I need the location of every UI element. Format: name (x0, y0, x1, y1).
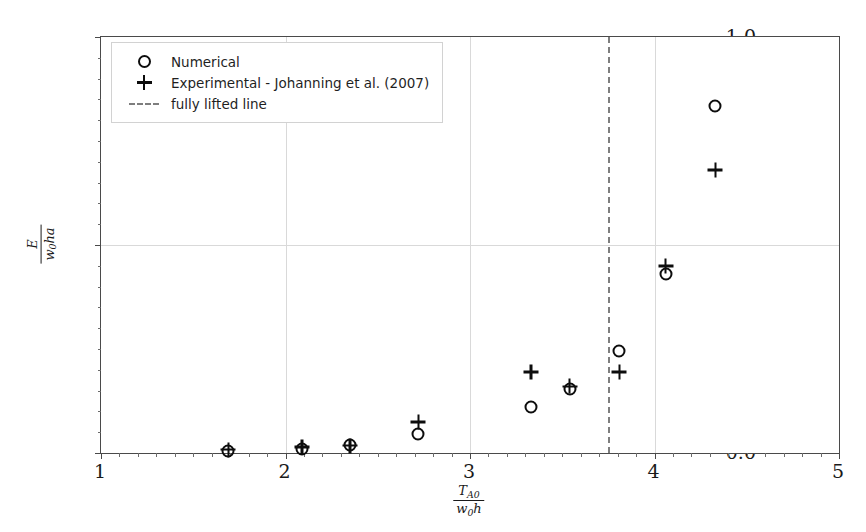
data-point-experimental (221, 442, 236, 457)
chart-legend: Numerical Experimental - Johanning et al… (111, 42, 443, 123)
fully-lifted-line-annotation (608, 37, 610, 453)
x-tick-minor (138, 453, 139, 457)
y-tick-minor (98, 120, 102, 121)
x-axis-label: TA0 w0h (453, 484, 484, 518)
x-tick-minor (544, 453, 545, 457)
data-point-numerical (524, 401, 537, 414)
y-tick-minor (98, 432, 102, 433)
x-tick-minor (562, 453, 563, 457)
chart-figure: 0.0 0.5 1.0 E w0ha TA0 w0h 12345 Numeric… (0, 0, 866, 532)
legend-item-experimental[interactable]: Experimental - Johanning et al. (2007) (123, 72, 429, 93)
x-tick-minor (581, 453, 582, 457)
x-tick-label: 3 (463, 460, 475, 482)
y-tick-minor (98, 58, 102, 59)
y-tick-minor (98, 307, 102, 308)
x-tick-minor (175, 453, 176, 457)
x-tick-minor (396, 453, 397, 457)
data-point-experimental (295, 440, 310, 455)
x-tick-minor (267, 453, 268, 457)
data-point-numerical (344, 438, 357, 451)
x-tick-major (839, 453, 840, 459)
data-point-experimental (708, 163, 723, 178)
data-point-numerical (412, 428, 425, 441)
x-tick-label: 5 (832, 460, 844, 482)
y-axis-numerator: E (26, 224, 42, 263)
x-tick-minor (599, 453, 600, 457)
y-tick-major (95, 37, 101, 38)
data-point-numerical (613, 345, 626, 358)
data-point-experimental (411, 414, 426, 429)
y-tick-minor (98, 411, 102, 412)
gridline-horizontal (101, 245, 839, 246)
legend-item-label: Numerical (165, 54, 240, 70)
x-tick-minor (802, 453, 803, 457)
x-tick-minor (359, 453, 360, 457)
data-point-numerical (222, 444, 235, 457)
data-point-experimental (658, 258, 673, 273)
x-tick-minor (765, 453, 766, 457)
y-axis-denominator: w0ha (41, 224, 57, 263)
legend-item-fully-lifted-line[interactable]: fully lifted line (123, 93, 429, 114)
y-tick-minor (98, 162, 102, 163)
data-point-numerical (296, 442, 309, 455)
y-tick-minor (98, 183, 102, 184)
circle-marker-icon (123, 51, 165, 72)
x-tick-minor (322, 453, 323, 457)
y-tick-minor (98, 203, 102, 204)
x-tick-minor (341, 453, 342, 457)
x-axis-numerator: TA0 (453, 484, 484, 501)
y-tick-minor (98, 224, 102, 225)
x-tick-minor (433, 453, 434, 457)
x-tick-label: 4 (647, 460, 659, 482)
y-tick-minor (98, 328, 102, 329)
y-tick-minor (98, 266, 102, 267)
data-point-experimental (562, 379, 577, 394)
x-tick-minor (507, 453, 508, 457)
y-tick-minor (98, 79, 102, 80)
x-tick-minor (710, 453, 711, 457)
x-tick-minor (230, 453, 231, 457)
x-tick-minor (304, 453, 305, 457)
x-tick-major (286, 453, 287, 459)
x-tick-minor (618, 453, 619, 457)
x-tick-minor (249, 453, 250, 457)
legend-item-numerical[interactable]: Numerical (123, 51, 429, 72)
data-point-experimental (523, 364, 538, 379)
x-tick-minor (415, 453, 416, 457)
x-tick-major (101, 453, 102, 459)
x-tick-label: 1 (94, 460, 106, 482)
dashed-line-icon (123, 93, 165, 114)
y-tick-major (95, 245, 101, 246)
y-axis-label: E w0ha (26, 224, 58, 263)
y-tick-minor (98, 349, 102, 350)
x-tick-minor (452, 453, 453, 457)
y-tick-major (95, 453, 101, 454)
data-point-numerical (563, 382, 576, 395)
x-tick-minor (673, 453, 674, 457)
x-tick-minor (784, 453, 785, 457)
legend-item-label: fully lifted line (165, 96, 267, 112)
x-tick-major (655, 453, 656, 459)
x-tick-minor (212, 453, 213, 457)
x-tick-minor (747, 453, 748, 457)
x-tick-minor (156, 453, 157, 457)
data-point-numerical (709, 99, 722, 112)
y-tick-minor (98, 99, 102, 100)
data-point-experimental (343, 438, 358, 453)
data-point-numerical (659, 268, 672, 281)
x-tick-minor (525, 453, 526, 457)
plus-marker-icon (123, 72, 165, 93)
x-axis-denominator: w0h (453, 501, 484, 517)
x-tick-minor (821, 453, 822, 457)
x-tick-minor (193, 453, 194, 457)
x-tick-minor (691, 453, 692, 457)
y-tick-minor (98, 370, 102, 371)
legend-item-label: Experimental - Johanning et al. (2007) (165, 75, 429, 91)
x-tick-label: 2 (278, 460, 290, 482)
x-tick-minor (378, 453, 379, 457)
x-tick-minor (728, 453, 729, 457)
x-tick-minor (636, 453, 637, 457)
x-tick-major (470, 453, 471, 459)
x-tick-minor (119, 453, 120, 457)
y-tick-minor (98, 287, 102, 288)
